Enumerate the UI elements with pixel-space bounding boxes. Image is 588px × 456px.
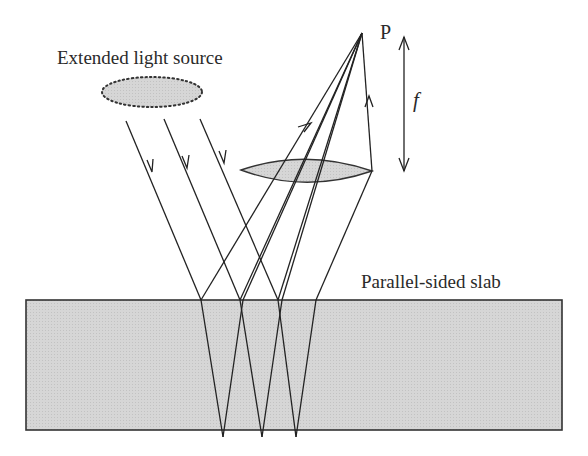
- slab-label: Parallel-sided slab: [361, 271, 501, 293]
- converging-lens: [241, 159, 372, 182]
- point-p-label: P: [380, 21, 391, 44]
- arrowhead-incident-1: [147, 159, 153, 172]
- arrowhead-incident-3: [219, 150, 226, 163]
- incident-ray-3: [200, 119, 278, 300]
- extended-light-source: [102, 77, 202, 107]
- arrowhead-incident-2: [182, 155, 189, 168]
- parallel-sided-slab: [26, 300, 562, 430]
- extended-light-source-label: Extended light source: [57, 47, 223, 69]
- incident-ray-1: [126, 121, 201, 300]
- focal-length-label: f: [413, 88, 419, 113]
- incident-ray-2: [164, 119, 240, 300]
